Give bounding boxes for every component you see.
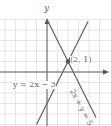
coordinate-plane: [0, 0, 111, 126]
intersection-label: (2, 1): [70, 56, 92, 64]
y-axis-label: y: [44, 4, 49, 13]
x-axis-arrow-icon: [103, 70, 109, 75]
line-1-equation-label: y = 2x − 3: [13, 81, 56, 89]
